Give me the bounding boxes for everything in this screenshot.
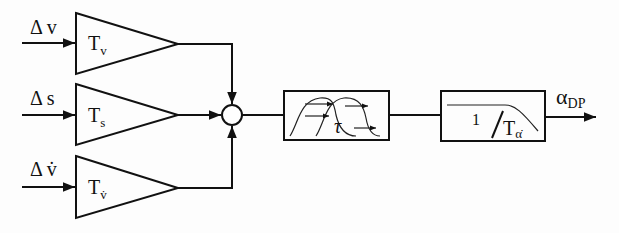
input-ds: Δ s bbox=[22, 87, 75, 115]
gain-label-ts: Ts bbox=[88, 104, 105, 130]
input-label-dv: Δ v bbox=[30, 16, 57, 38]
gain-block-tv: Tv bbox=[76, 13, 178, 74]
gain-block-ts: Ts bbox=[76, 84, 178, 145]
input-dvdot: Δ v̇ bbox=[22, 158, 75, 187]
filter-block: 1 Tα̇ bbox=[441, 91, 545, 141]
filter-denominator: Tα̇ bbox=[503, 117, 523, 141]
delay-label-tau: τ bbox=[334, 115, 342, 137]
delay-block: τ bbox=[284, 91, 389, 140]
gain-block-tvdot: Tv̇ bbox=[76, 156, 178, 218]
block-diagram: Δ v Tv Δ s Ts Δ v̇ Tv̇ bbox=[0, 0, 619, 233]
filter-slash bbox=[492, 111, 503, 138]
filter-numerator: 1 bbox=[472, 111, 480, 128]
lowpass-curve-icon bbox=[447, 105, 538, 131]
gain-label-tvdot: Tv̇ bbox=[88, 176, 107, 202]
gain-label-tv: Tv bbox=[88, 32, 107, 58]
input-label-ds: Δ s bbox=[30, 87, 55, 109]
output-label: αDP bbox=[556, 84, 586, 111]
input-dv: Δ v bbox=[22, 16, 75, 43]
summing-junction bbox=[222, 105, 242, 125]
input-label-dvdot: Δ v̇ bbox=[30, 158, 57, 180]
